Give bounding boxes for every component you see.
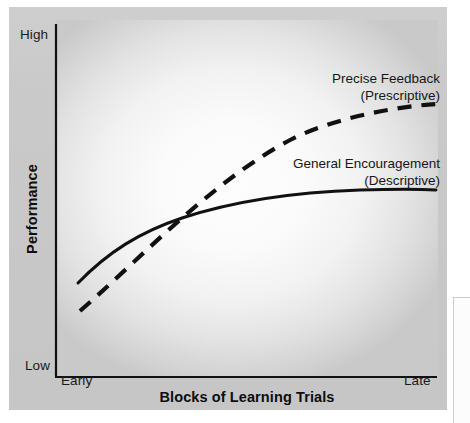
series-label-general-encouragement-line2: (Descriptive) (293, 172, 440, 189)
x-axis-tick-late: Late (404, 373, 431, 388)
chart-canvas (0, 0, 470, 423)
series-label-general-encouragement-line1: General Encouragement (293, 155, 440, 172)
series-label-precise-feedback-line1: Precise Feedback (332, 70, 440, 87)
x-axis-title: Blocks of Learning Trials (56, 389, 438, 405)
y-axis-tick-low: Low (25, 358, 50, 373)
side-panel-strip (453, 297, 470, 423)
y-axis-tick-high: High (20, 27, 48, 42)
figure-root: High Low Early Late Performance Blocks o… (0, 0, 470, 423)
series-label-precise-feedback-line2: (Prescriptive) (332, 87, 440, 104)
series-line-precise-feedback (80, 104, 436, 311)
series-label-general-encouragement: General Encouragement (Descriptive) (293, 155, 440, 189)
series-label-precise-feedback: Precise Feedback (Prescriptive) (332, 70, 440, 104)
x-axis-tick-early: Early (61, 373, 92, 388)
series-line-general-encouragement (78, 189, 436, 283)
y-axis-title: Performance (24, 149, 40, 269)
